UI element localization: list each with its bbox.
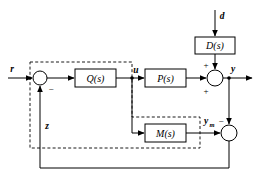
block-diagram-canvas: D(s) Q(s) P(s) M(s) r u d y z y m [0,0,254,182]
signal-label-ym: y m [203,116,215,128]
signal-label-u: u [133,65,138,75]
block-disturbance[interactable]: D(s) [195,37,235,54]
block-controller-q[interactable]: Q(s) [75,69,116,87]
sign-error-minus: − [48,84,53,94]
block-disturbance-label: D(s) [205,40,224,52]
signal-label-y: y [230,64,236,74]
summing-junction-error[interactable] [33,71,47,85]
block-model-m-label: M(s) [155,128,176,140]
block-diagram-svg: D(s) Q(s) P(s) M(s) r u d y z y m [0,0,254,182]
sign-output-plus-left: + [203,86,208,96]
signal-label-r: r [10,64,14,74]
block-controller-q-label: Q(s) [87,73,105,85]
summing-junction-model[interactable] [221,125,237,141]
block-model-m[interactable]: M(s) [145,124,186,142]
block-plant-p[interactable]: P(s) [145,69,186,87]
node-dot-r-branch [28,76,31,79]
signal-label-z: z [44,121,49,131]
signal-label-d: d [220,11,225,21]
block-plant-p-label: P(s) [156,73,174,85]
sign-model-minus: − [218,116,223,126]
signal-label-ym-base: y [203,116,209,126]
signal-label-ym-subscript: m [210,121,215,128]
summing-junction-output[interactable] [207,70,223,86]
sign-output-plus-top: + [203,60,208,70]
